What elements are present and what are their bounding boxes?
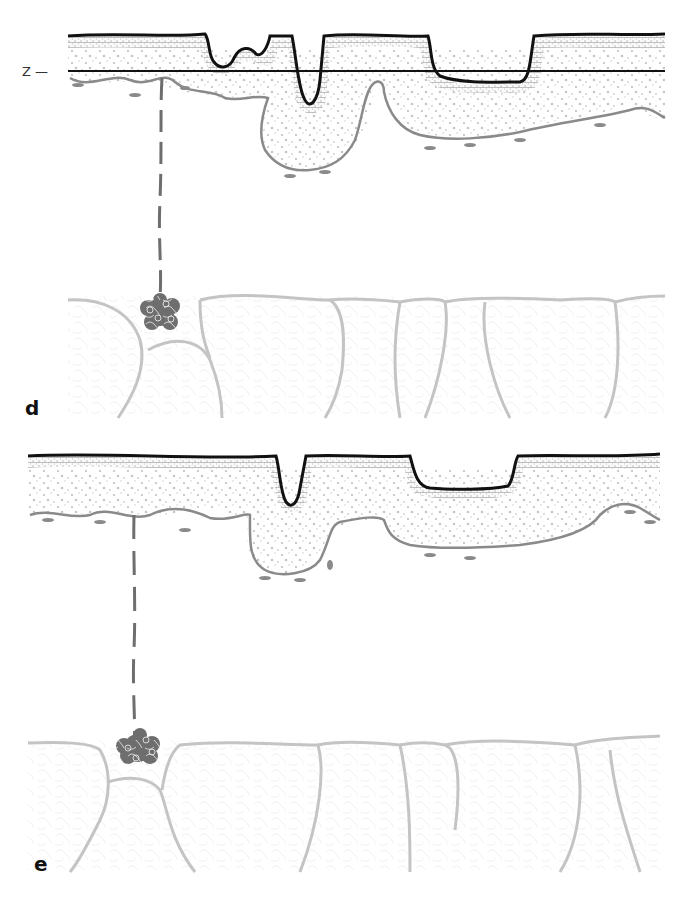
panel-e xyxy=(28,454,660,872)
hair-shaft-d xyxy=(159,78,162,298)
panel-label-e: e xyxy=(34,852,48,876)
panel-label-d: d xyxy=(25,396,39,420)
subcutis-d xyxy=(68,296,665,416)
skin-cross-section-diagram xyxy=(0,0,686,899)
dermis-region-e xyxy=(28,470,660,575)
subcutis-e xyxy=(28,740,660,870)
reference-line-label: Z — xyxy=(22,64,48,79)
dermis-region-d xyxy=(68,50,665,172)
hair-shaft-e xyxy=(133,515,134,750)
panel-d xyxy=(68,34,665,418)
